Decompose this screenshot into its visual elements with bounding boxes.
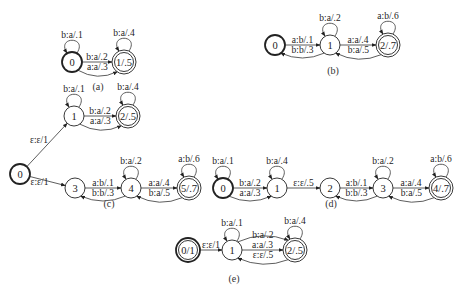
edge-arrow xyxy=(434,164,449,177)
edge-arrow xyxy=(27,123,67,166)
edge-label: b:a/.4 xyxy=(117,82,139,92)
state-node: 2/.7 xyxy=(376,33,400,57)
edge-label: b:a/.5 xyxy=(149,188,171,198)
edge-label: b:a/.5 xyxy=(348,45,370,55)
transition-edge: b:a/.2 xyxy=(82,52,112,62)
transition-edge: b:a/.2 xyxy=(372,156,394,179)
edge-label: b:b/.3 xyxy=(92,188,114,198)
state-label: 2 xyxy=(327,183,332,194)
state-node: 0 xyxy=(213,178,233,198)
state-node: 1 xyxy=(222,240,242,260)
edge-arrow xyxy=(225,228,240,241)
edge-label: a:b/.6 xyxy=(377,11,399,21)
transition-edge: ε:ε/1 xyxy=(30,176,66,187)
edge-arrow xyxy=(216,166,231,179)
wfst-diagram: b:a/.1b:a/.2a:a/.3b:a/.4a:b/.1b:b/.3b:a/… xyxy=(0,0,465,292)
state-label: 2/.5 xyxy=(120,111,136,122)
edge-arrow xyxy=(117,38,132,51)
panel-caption: (c) xyxy=(103,198,114,210)
state-node: 0 xyxy=(10,164,30,184)
edge-label: a:a/.3 xyxy=(90,116,111,126)
transition-edge: a:b/.6 xyxy=(430,154,452,177)
edge-label: a:a/.4 xyxy=(348,35,369,45)
transition-edge: b:a/.1 xyxy=(212,156,234,179)
edge-arrow xyxy=(67,94,82,107)
transition-edge: a:a/.4 xyxy=(141,178,177,188)
panel-caption: (e) xyxy=(228,273,239,285)
state-node: 1 xyxy=(320,35,340,55)
edge-label: b:a/.2 xyxy=(252,230,274,240)
edge-label: b:b/.3 xyxy=(292,45,314,55)
transition-edge: a:a/.4 xyxy=(393,178,429,188)
state-node: 3 xyxy=(65,178,85,198)
transition-edge: b:a/.2 xyxy=(319,13,341,36)
state-node: 1 xyxy=(64,106,84,126)
transition-edge: a:b/.1 xyxy=(340,178,373,188)
transition-edge: a:b/.6 xyxy=(377,11,399,34)
transition-edge: b:a/.4 xyxy=(113,28,135,51)
transition-edge: b:b/.3 xyxy=(336,188,378,201)
edge-label: b:a/.4 xyxy=(284,216,306,226)
transition-edge: a:a/.3 xyxy=(78,62,118,76)
transition-edge: a:b/.6 xyxy=(178,154,200,177)
edge-label: a:a/.3 xyxy=(87,62,108,72)
state-node: 3 xyxy=(373,178,393,198)
transition-edge: b:a/.5 xyxy=(336,45,382,59)
edge-arrow xyxy=(376,166,391,179)
transition-edge: b:a/.2 xyxy=(233,178,267,188)
edge-arrow xyxy=(182,164,197,177)
state-label: 4/.7 xyxy=(433,183,449,194)
state-node: 4/.7 xyxy=(429,176,453,200)
panel-caption: (a) xyxy=(92,81,103,93)
transition-edge: b:a/.4 xyxy=(284,216,306,239)
state-label: 0 xyxy=(69,57,74,68)
state-node: 0 xyxy=(62,52,82,72)
state-node: 5/.7 xyxy=(177,176,201,200)
edge-label: b:a/.4 xyxy=(113,28,135,38)
state-node: 2 xyxy=(320,178,340,198)
edge-label: b:a/.1 xyxy=(61,30,83,40)
edge-label: a:a/.3 xyxy=(252,240,273,250)
transition-edge: b:a/.1 xyxy=(61,30,83,53)
edge-label: ε:ε/1 xyxy=(202,240,220,250)
edge-label: b:a/.4 xyxy=(266,156,288,166)
edge-label: a:b/.1 xyxy=(92,178,114,188)
transition-edge: b:a/.5 xyxy=(137,188,183,202)
edge-label: a:a/.3 xyxy=(240,188,261,198)
state-node: 1 xyxy=(267,178,287,198)
edge-label: b:a/.2 xyxy=(319,13,341,23)
edge-label: a:b/.6 xyxy=(178,154,200,164)
state-node: 1/.5 xyxy=(112,50,136,74)
state-label: 1 xyxy=(229,245,234,256)
edge-arrow xyxy=(381,21,396,34)
edge-label: a:b/.6 xyxy=(430,154,452,164)
transition-edge: b:a/.1 xyxy=(63,84,85,107)
state-label: 4 xyxy=(128,183,134,194)
edge-label: a:b/.1 xyxy=(292,35,314,45)
edge-label: b:a/.2 xyxy=(89,106,111,116)
edge-label: ε:ε/1 xyxy=(30,177,48,187)
state-node: 4 xyxy=(121,178,141,198)
state-node: 2/.5 xyxy=(116,104,140,128)
edge-label: ε:ε/.5 xyxy=(253,250,274,260)
panel-caption: (b) xyxy=(327,65,339,77)
state-node: 0/1 xyxy=(176,238,200,262)
transition-edge: a:b/.1 xyxy=(85,178,121,188)
edge-label: a:a/.4 xyxy=(149,178,170,188)
edge-label: b:a/.1 xyxy=(63,84,85,94)
edge-label: b:a/.2 xyxy=(239,178,261,188)
transition-edge: a:a/.3 xyxy=(80,116,122,130)
transition-edge: b:a/.1 xyxy=(221,218,243,241)
edge-arrow xyxy=(288,226,303,239)
transition-edge: ε:ε/.5 xyxy=(238,250,289,264)
state-label: 0 xyxy=(272,40,277,51)
transition-edge: ε:ε/.5 xyxy=(287,178,320,188)
edge-arrow xyxy=(270,166,285,179)
state-label: 0 xyxy=(17,169,22,180)
transition-edge: b:a/.5 xyxy=(389,188,435,202)
transition-edge: a:a/.3 xyxy=(242,240,283,250)
edge-label: b:b/.3 xyxy=(346,188,368,198)
state-label: 3 xyxy=(72,183,77,194)
edge-label: b:a/.1 xyxy=(221,218,243,228)
state-label: 0 xyxy=(220,183,225,194)
